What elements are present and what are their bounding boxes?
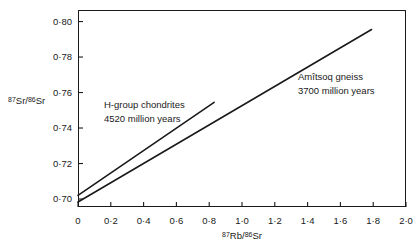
annotation-h-group-chondrites: H-group chondrites 4520 million years: [104, 98, 185, 125]
x-axis-title: 87Rb/86Sr: [222, 231, 262, 241]
x-tick-label-7: 1·4: [301, 216, 315, 226]
x-axis-title-tail: Sr: [252, 230, 262, 241]
x-tick-label-8: 1·6: [334, 216, 348, 226]
x-tick-label-5: 1·0: [235, 216, 249, 226]
y-axis-title-mid: Sr/: [16, 95, 28, 106]
annotation-amitsoq-age: 3700 million years: [298, 84, 375, 98]
x-tick-label-0: 0: [75, 216, 80, 226]
x-tick-label-2: 0·4: [137, 216, 151, 226]
annotation-amitsoq-name: Amîtsoq gneiss: [298, 70, 375, 84]
x-axis-ticks: [78, 202, 406, 207]
y-tick-label-1: 0·72: [36, 159, 72, 169]
isochron-figure: 0·700·720·740·760·780·80 00·20·40·60·81·…: [0, 0, 419, 252]
y-axis-title-sup-86: 86: [28, 96, 36, 103]
annotation-chondrites-name: H-group chondrites: [104, 98, 185, 112]
y-tick-label-0: 0·70: [36, 194, 72, 204]
annotation-chondrites-age: 4520 million years: [104, 112, 185, 126]
y-axis-title-tail: Sr: [36, 95, 46, 106]
annotation-amitsoq-gneiss: Amîtsoq gneiss 3700 million years: [298, 70, 375, 97]
x-axis-title-sup-87: 87: [222, 231, 230, 238]
y-tick-label-2: 0·74: [36, 123, 72, 133]
y-axis-ticks: [78, 22, 83, 199]
x-tick-label-6: 1·2: [268, 216, 282, 226]
y-tick-label-5: 0·80: [36, 17, 72, 27]
x-tick-label-10: 2·0: [399, 216, 413, 226]
x-tick-label-9: 1·8: [366, 216, 380, 226]
x-tick-label-3: 0·6: [170, 216, 184, 226]
x-tick-label-1: 0·2: [104, 216, 118, 226]
y-axis-title: 87Sr/86Sr: [8, 96, 45, 106]
y-axis-title-sup-87: 87: [8, 96, 16, 103]
x-tick-label-4: 0·8: [202, 216, 216, 226]
x-axis-title-mid: Rb/: [230, 230, 245, 241]
y-tick-label-4: 0·78: [36, 52, 72, 62]
